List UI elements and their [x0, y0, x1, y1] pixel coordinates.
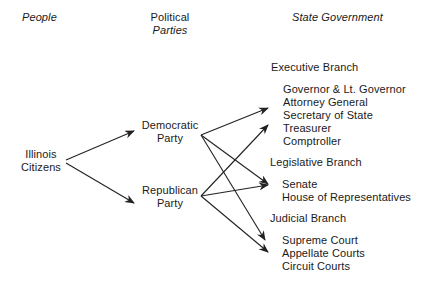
- arrow-citizens-to-republican: [66, 163, 134, 203]
- flow-arrows: [0, 0, 429, 284]
- arrow-democratic-to-legislative: [201, 135, 268, 184]
- arrow-citizens-to-democratic: [66, 131, 134, 160]
- arrow-republican-to-legislative: [201, 185, 268, 196]
- arrow-republican-to-executive: [201, 125, 268, 196]
- arrow-democratic-to-executive: [201, 108, 268, 135]
- arrow-republican-to-judicial: [201, 196, 268, 252]
